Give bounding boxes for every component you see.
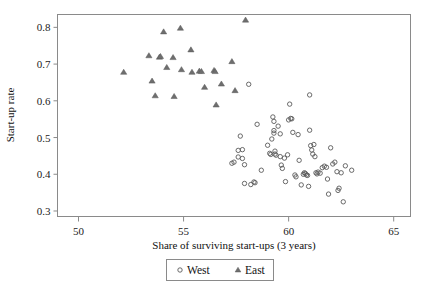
data-point-west xyxy=(297,158,301,162)
data-point-west xyxy=(271,115,275,119)
data-point-west xyxy=(343,164,347,168)
data-point-west xyxy=(307,128,311,132)
x-tick-label: 60 xyxy=(283,225,295,237)
data-point-west xyxy=(247,82,251,86)
legend-label-east: East xyxy=(245,264,266,276)
data-point-west xyxy=(269,152,273,156)
data-point-east xyxy=(177,25,183,30)
data-point-east xyxy=(218,81,224,86)
scatter-plot-figure: 0.30.40.50.60.70.8 50556065 Start-up rat… xyxy=(0,0,430,290)
data-point-west xyxy=(242,163,246,167)
x-axis: 50556065 xyxy=(73,217,400,237)
data-point-east xyxy=(164,64,170,69)
data-point-west xyxy=(240,147,244,151)
data-point-west xyxy=(278,154,282,158)
data-point-west xyxy=(306,184,310,188)
data-point-east xyxy=(213,102,219,107)
series-west-points xyxy=(230,82,354,204)
data-point-west xyxy=(307,93,311,97)
data-point-west xyxy=(278,132,282,136)
data-point-west xyxy=(236,155,240,159)
x-axis-title: Share of surviving start-ups (3 years) xyxy=(152,239,316,252)
series-east-points xyxy=(121,17,249,107)
data-point-east xyxy=(170,55,176,60)
data-point-east xyxy=(201,84,207,89)
data-point-west xyxy=(341,200,345,204)
data-point-west xyxy=(299,183,303,187)
data-point-west xyxy=(349,168,353,172)
data-point-east xyxy=(242,17,248,22)
data-point-east xyxy=(149,78,155,83)
y-tick-label: 0.7 xyxy=(37,58,51,70)
data-point-west xyxy=(326,192,330,196)
y-axis-title: Start-up rate xyxy=(4,88,16,143)
data-point-west xyxy=(255,122,259,126)
data-point-west xyxy=(325,177,329,181)
x-tick-label: 65 xyxy=(388,225,400,237)
data-point-west xyxy=(272,119,276,123)
y-tick-label: 0.6 xyxy=(37,95,51,107)
data-point-east xyxy=(161,29,167,34)
data-point-east xyxy=(121,69,127,74)
data-point-east xyxy=(229,59,235,64)
data-point-east xyxy=(232,88,238,93)
data-point-west xyxy=(276,124,280,128)
plot-canvas: 0.30.40.50.60.70.8 50556065 Start-up rat… xyxy=(0,0,430,290)
data-point-west xyxy=(259,168,263,172)
data-point-west xyxy=(291,130,295,134)
data-point-west xyxy=(270,137,274,141)
x-tick-label: 55 xyxy=(178,225,190,237)
data-point-east xyxy=(188,47,194,52)
y-tick-label: 0.3 xyxy=(37,205,51,217)
y-tick-label: 0.4 xyxy=(37,168,51,180)
legend: WestEast xyxy=(167,260,274,281)
y-tick-label: 0.8 xyxy=(37,21,51,33)
data-point-west xyxy=(240,156,244,160)
data-point-west xyxy=(328,146,332,150)
plot-frame xyxy=(58,15,411,217)
data-point-west xyxy=(283,179,287,183)
y-axis: 0.30.40.50.60.70.8 xyxy=(37,21,58,217)
data-point-east xyxy=(152,93,158,98)
data-point-east xyxy=(171,93,177,98)
data-point-west xyxy=(236,148,240,152)
data-point-west xyxy=(274,153,278,157)
data-point-west xyxy=(335,169,339,173)
data-point-east xyxy=(146,53,152,58)
data-point-west xyxy=(296,132,300,136)
data-point-west xyxy=(285,153,289,157)
legend-label-west: West xyxy=(187,264,211,276)
data-point-west xyxy=(238,134,242,138)
data-point-west xyxy=(265,143,269,147)
data-point-east xyxy=(178,67,184,72)
data-point-west xyxy=(242,181,246,185)
data-point-west xyxy=(287,102,291,106)
data-point-west xyxy=(339,171,343,175)
y-tick-label: 0.5 xyxy=(37,132,51,144)
data-point-east xyxy=(189,69,195,74)
x-tick-label: 50 xyxy=(73,225,85,237)
